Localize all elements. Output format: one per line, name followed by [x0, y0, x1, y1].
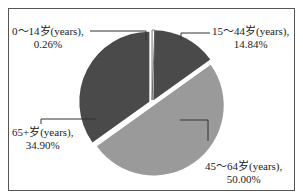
- label-15-44-category: 15～44岁(years),: [212, 25, 289, 38]
- label-0-14-category: 0～14岁(years),: [12, 25, 84, 38]
- label-65plus-category: 65+岁(years),: [12, 126, 74, 139]
- label-65plus-value: 34.90%: [12, 139, 74, 152]
- label-15-44: 15～44岁(years), 14.84%: [212, 25, 289, 51]
- label-45-64-category: 45～64岁(years),: [205, 160, 282, 173]
- label-45-64-value: 50.00%: [205, 173, 282, 186]
- label-45-64: 45～64岁(years), 50.00%: [205, 160, 282, 186]
- label-15-44-value: 14.84%: [212, 38, 289, 51]
- label-0-14: 0～14岁(years), 0.26%: [12, 25, 84, 51]
- label-0-14-value: 0.26%: [12, 38, 84, 51]
- label-65plus: 65+岁(years), 34.90%: [12, 126, 74, 152]
